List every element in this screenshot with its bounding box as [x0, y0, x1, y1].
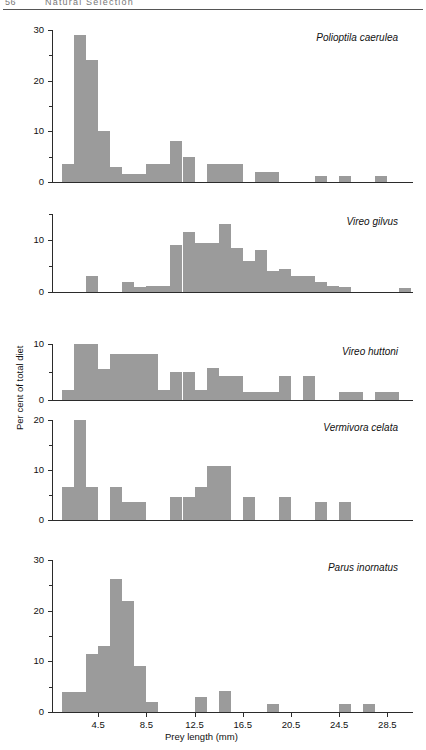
y-axis-minor-tick	[49, 636, 52, 637]
histogram-bar	[219, 691, 231, 712]
histogram-bar	[122, 601, 134, 712]
y-axis-minor-tick	[49, 585, 52, 586]
species-label: Parus inornatus	[198, 562, 398, 573]
x-axis-tick-label: 20.5	[276, 719, 306, 730]
y-axis-tick-label: 20	[22, 606, 44, 615]
histogram-bar	[98, 646, 110, 712]
x-axis-tick-label: 28.5	[372, 719, 402, 730]
x-axis-tick	[146, 713, 147, 717]
histogram-bar	[62, 692, 74, 712]
y-axis-tick-label: 10	[22, 656, 44, 665]
histogram-bar	[146, 702, 158, 712]
histogram-bar	[195, 697, 207, 712]
x-axis-tick	[339, 713, 340, 717]
y-axis-tick	[48, 712, 52, 713]
x-axis-tick-label: 24.5	[324, 719, 354, 730]
x-axis-tick	[98, 713, 99, 717]
x-axis-line	[52, 712, 413, 713]
histogram-bar	[110, 579, 122, 712]
y-axis-tick	[48, 661, 52, 662]
x-axis-tick	[195, 713, 196, 717]
x-axis-tick-label: 8.5	[131, 719, 161, 730]
y-axis-tick-label: 30	[22, 555, 44, 564]
y-axis-tick-label: 0	[22, 707, 44, 716]
y-axis-line	[52, 560, 53, 713]
histogram-bar	[134, 666, 146, 712]
x-axis-tick	[243, 713, 244, 717]
y-axis-tick	[48, 611, 52, 612]
x-axis-tick	[387, 713, 388, 717]
figure-prey-length-histograms: Per cent of total diet Prey length (mm) …	[0, 0, 426, 750]
histogram-bar	[339, 704, 351, 712]
y-axis-minor-tick	[49, 687, 52, 688]
histogram-bar	[86, 654, 98, 712]
histogram-panel: 0102030Parus inornatus4.58.512.516.520.5…	[0, 0, 426, 750]
x-axis-tick-label: 16.5	[228, 719, 258, 730]
histogram-bar	[74, 692, 86, 712]
x-axis-tick-label: 12.5	[180, 719, 210, 730]
x-axis-tick-label: 4.5	[83, 719, 113, 730]
histogram-bar	[363, 704, 375, 712]
y-axis-tick	[48, 560, 52, 561]
x-axis-tick	[291, 713, 292, 717]
histogram-bar	[267, 704, 279, 712]
